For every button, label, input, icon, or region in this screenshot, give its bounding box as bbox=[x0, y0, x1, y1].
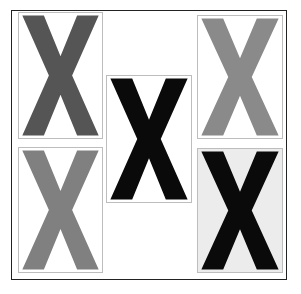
x-panel-bottom-right: X bbox=[197, 148, 283, 273]
x-panel-center: X bbox=[106, 75, 192, 203]
x-letter-icon bbox=[107, 76, 191, 202]
x-panel-top-left: X bbox=[18, 12, 103, 139]
x-letter-icon bbox=[19, 148, 102, 272]
x-letter-icon bbox=[19, 13, 102, 138]
x-letter-icon bbox=[198, 16, 282, 138]
x-panel-top-right: X bbox=[197, 15, 283, 139]
x-letter-icon bbox=[198, 149, 282, 272]
x-panel-bottom-left: X bbox=[18, 147, 103, 273]
